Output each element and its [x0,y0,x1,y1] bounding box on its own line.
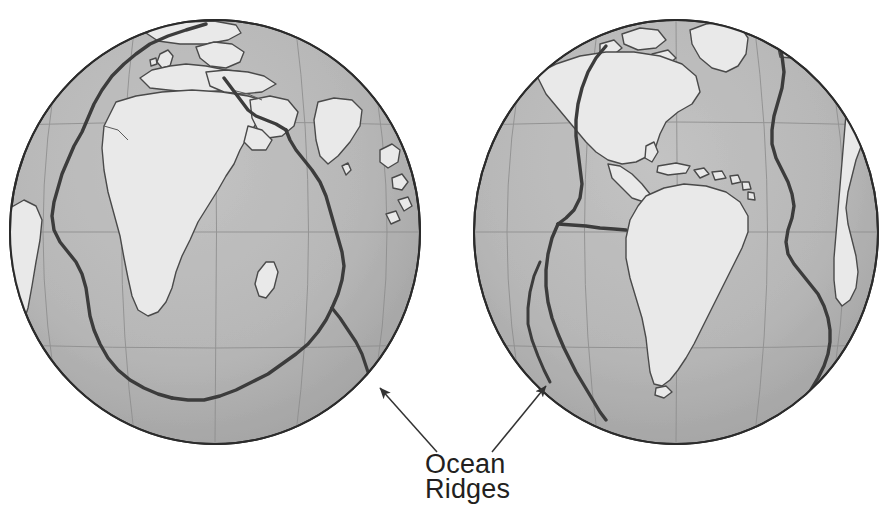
ocean-ridges-label-line-2: Ridges [425,477,510,502]
left-globe [4,20,420,444]
figure-canvas: Ocean Ridges [0,0,892,521]
right-leader-line [492,386,546,452]
left-leader-line [380,388,437,452]
ocean-ridges-label: Ocean Ridges [425,452,510,502]
globe-illustration [0,0,892,521]
right-globe [474,20,882,444]
annotation-leaders [380,386,546,452]
